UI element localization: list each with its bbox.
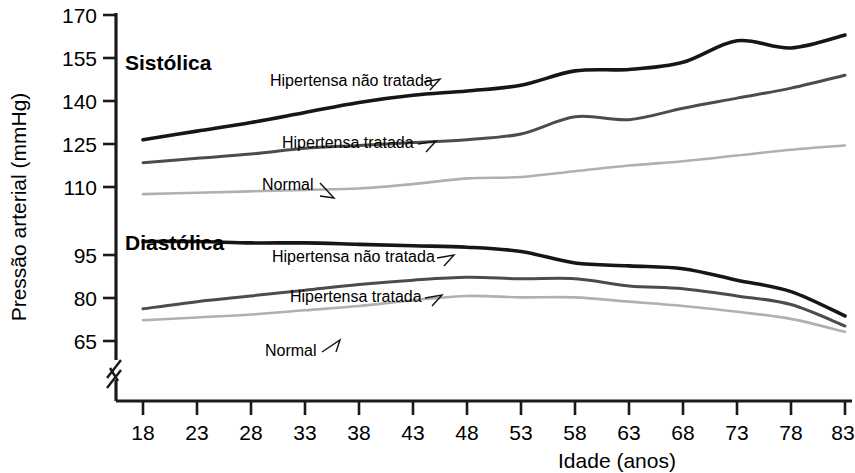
x-tick-label: 73 [725, 421, 748, 444]
axes [107, 13, 852, 401]
x-tick-label: 83 [831, 421, 854, 444]
x-tick-marks [143, 401, 845, 415]
y-tick-marks [103, 15, 116, 341]
x-tick-label: 38 [347, 421, 370, 444]
series-line-systolic-2 [143, 145, 845, 194]
axis-break-icon [107, 360, 121, 388]
x-tick-labels: 18 23 28 33 38 43 48 53 58 63 68 73 78 8… [131, 421, 854, 444]
callout-diastolic-untreated: Hipertensa não tratada [272, 248, 435, 265]
callout-systolic-normal: Normal [262, 176, 314, 193]
x-tick-label: 78 [779, 421, 802, 444]
x-axis-title: Idade (anos) [558, 449, 676, 472]
group-heading-systolic: Sistólica [125, 51, 212, 74]
y-tick-label: 110 [64, 176, 97, 199]
x-tick-label: 28 [239, 421, 262, 444]
series-layer [143, 35, 845, 332]
x-tick-label: 48 [455, 421, 478, 444]
y-tick-label: 80 [74, 287, 97, 310]
x-tick-label: 63 [617, 421, 640, 444]
x-tick-label: 43 [401, 421, 424, 444]
x-tick-label: 68 [671, 421, 694, 444]
callout-diastolic-treated: Hipertensa tratada [290, 288, 422, 305]
x-tick-label: 33 [293, 421, 316, 444]
y-tick-labels: 170 155 140 125 110 95 80 65 [62, 4, 97, 353]
y-tick-label: 155 [62, 47, 97, 70]
y-tick-label: 65 [74, 330, 97, 353]
callout-systolic-untreated: Hipertensa não tratada [270, 72, 433, 89]
chart-canvas: 170 155 140 125 110 95 80 65 [0, 0, 855, 473]
blood-pressure-line-chart: 170 155 140 125 110 95 80 65 [0, 0, 855, 473]
y-tick-label: 95 [74, 244, 97, 267]
x-tick-label: 18 [131, 421, 154, 444]
y-tick-label: 140 [62, 90, 97, 113]
y-axis-title: Pressão arterial (mmHg) [7, 93, 30, 322]
callout-systolic-treated: Hipertensa tratada [282, 134, 414, 151]
y-tick-label: 125 [62, 133, 97, 156]
group-heading-diastolic: Diastólica [125, 231, 225, 254]
x-tick-label: 23 [185, 421, 208, 444]
x-tick-label: 58 [563, 421, 586, 444]
series-line-diastolic-5 [143, 296, 845, 332]
y-tick-label: 170 [62, 4, 97, 27]
callout-diastolic-normal: Normal [265, 342, 317, 359]
x-tick-label: 53 [509, 421, 532, 444]
series-line-systolic-0 [143, 35, 845, 140]
callout-leader-diastolic-untreated [437, 255, 454, 266]
series-line-diastolic-4 [143, 277, 845, 326]
callout-leader-diastolic-normal [322, 340, 340, 352]
